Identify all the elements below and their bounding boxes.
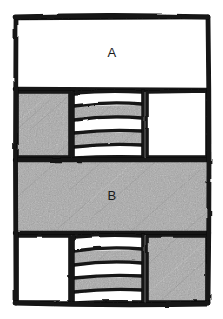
frame-edge-right <box>208 17 209 304</box>
frame-edge-bottom <box>15 303 208 305</box>
bottom-right-block-fill <box>147 236 207 302</box>
mid-right-block-fill <box>147 91 207 157</box>
frame-edge-top <box>15 16 208 18</box>
frame-edge-left <box>16 19 17 303</box>
cell-mid-stripe-stack <box>73 91 143 158</box>
cell-bottom-right-block <box>147 236 207 302</box>
cell-mid-right-block <box>147 91 207 157</box>
cell-bottom-left-block <box>17 236 70 302</box>
cell-bottom-stripe-stack <box>73 235 143 303</box>
region-label-a: A <box>107 45 116 60</box>
region-row-middle <box>17 91 207 158</box>
sketch-canvas: A B <box>0 0 223 319</box>
bottom-left-block-fill <box>17 236 70 302</box>
sketch-diagram: A B <box>0 0 223 319</box>
region-label-b: B <box>107 188 116 203</box>
cell-mid-left-block <box>17 92 70 157</box>
mid-left-block-fill <box>17 92 70 157</box>
region-row-bottom <box>17 235 207 303</box>
